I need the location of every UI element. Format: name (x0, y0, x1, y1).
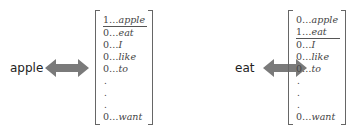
entry-token: to (312, 63, 322, 74)
one-hot-vector: 1…apple0…eat0…I0…like0…to...0…want (95, 10, 153, 125)
entry-separator: … (302, 14, 312, 25)
double-arrow-icon (45, 59, 89, 77)
ellipsis-row: . (296, 87, 340, 99)
vector-entry: 0…like (103, 51, 147, 63)
entry-separator: … (109, 39, 119, 50)
one-hot-vector: 0…apple1…eat0…I0…like0…to...0…want (288, 10, 346, 125)
entry-separator: … (109, 27, 119, 38)
ellipsis-row: . (103, 87, 147, 99)
entry-token: apple (119, 14, 146, 25)
left-bracket (95, 10, 100, 125)
vector-entry: 1…apple (103, 14, 147, 27)
vector-entry: 0…like (296, 51, 340, 63)
vector-entry: 0…to (103, 63, 147, 75)
entry-token: I (312, 39, 316, 50)
vector-rows: 1…apple0…eat0…I0…like0…to...0…want (103, 14, 147, 123)
left-bracket (288, 10, 293, 125)
vector-entry: 1…eat (296, 26, 340, 39)
word-label: eat (235, 61, 254, 75)
entry-token: like (312, 51, 329, 62)
vector-entry: 0…to (296, 63, 340, 75)
entry-separator: … (109, 51, 119, 62)
entry-separator: … (109, 111, 119, 122)
entry-separator: … (302, 111, 312, 122)
entry-token: eat (119, 27, 134, 38)
entry-token: I (119, 39, 123, 50)
entry-separator: … (109, 63, 119, 74)
ellipsis-row: . (103, 99, 147, 111)
vector-entry: 0…eat (103, 27, 147, 39)
entry-separator: … (302, 51, 312, 62)
vector-entry: 0…I (296, 39, 340, 51)
entry-separator: … (302, 63, 312, 74)
ellipsis-row: . (296, 99, 340, 111)
vector-entry: 0…want (296, 111, 340, 123)
entry-token: want (312, 111, 336, 122)
vector-entry: 0…want (103, 111, 147, 123)
ellipsis-row: . (296, 75, 340, 87)
entry-separator: … (302, 26, 312, 37)
entry-separator: … (109, 14, 119, 25)
vector-entry: 0…I (103, 39, 147, 51)
vector-rows: 0…apple1…eat0…I0…like0…to...0…want (296, 14, 340, 123)
entry-token: eat (312, 26, 327, 37)
entry-token: want (119, 111, 143, 122)
entry-separator: … (302, 39, 312, 50)
vector-entry: 0…apple (296, 14, 340, 26)
right-bracket (148, 10, 153, 125)
ellipsis-row: . (103, 75, 147, 87)
entry-token: apple (312, 14, 339, 25)
entry-token: to (119, 63, 129, 74)
word-label: apple (10, 61, 43, 75)
entry-token: like (119, 51, 136, 62)
right-bracket (341, 10, 346, 125)
